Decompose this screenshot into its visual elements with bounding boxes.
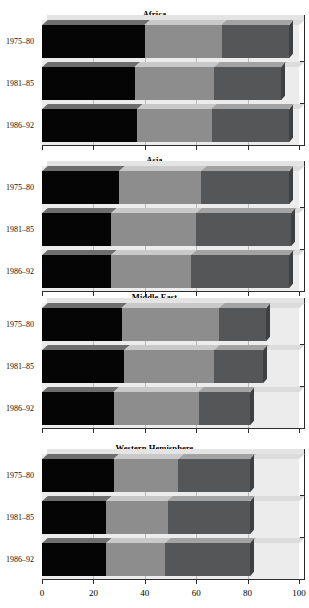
panel-baseline bbox=[42, 579, 305, 580]
x-axis-tick bbox=[248, 429, 249, 433]
bar-row bbox=[0, 171, 309, 204]
bar-row bbox=[0, 255, 309, 288]
bar-segment bbox=[135, 67, 215, 100]
bar-segment bbox=[106, 543, 165, 576]
bar-segment bbox=[111, 213, 196, 246]
x-axis-label: 100 bbox=[292, 588, 306, 598]
x-axis-tick bbox=[248, 146, 249, 150]
stacked-bar-chart-figure: Africa1975–801981–851986–92Asia1975–8019… bbox=[0, 0, 309, 608]
x-axis-label: 20 bbox=[89, 588, 98, 598]
bar-segment bbox=[42, 213, 111, 246]
x-axis-tick bbox=[196, 580, 197, 584]
x-axis-tick bbox=[42, 580, 43, 584]
bar-side-face bbox=[250, 454, 254, 491]
x-axis-tick bbox=[145, 580, 146, 584]
bar-segment bbox=[191, 255, 289, 288]
bar-side-face bbox=[289, 20, 293, 57]
x-axis-label: 80 bbox=[243, 588, 252, 598]
bar-side-face bbox=[291, 208, 295, 245]
bar-segment bbox=[178, 459, 250, 492]
x-axis-tick bbox=[93, 580, 94, 584]
bar-row bbox=[0, 25, 309, 58]
bar-segment bbox=[219, 308, 265, 341]
x-axis-tick bbox=[299, 580, 300, 584]
bar-side-face bbox=[289, 104, 293, 141]
bar-segment bbox=[165, 543, 250, 576]
bar-row bbox=[0, 67, 309, 100]
bar-segment bbox=[42, 459, 114, 492]
x-axis-tick bbox=[145, 429, 146, 433]
bar-segment bbox=[168, 501, 250, 534]
bar-segment bbox=[119, 171, 201, 204]
x-axis-label: 0 bbox=[40, 588, 45, 598]
panel-baseline bbox=[42, 145, 305, 146]
bar-segment bbox=[106, 501, 168, 534]
x-axis-tick bbox=[299, 146, 300, 150]
bar-row bbox=[0, 501, 309, 534]
bar-side-face bbox=[250, 496, 254, 533]
bar-segment bbox=[214, 350, 263, 383]
bar-row bbox=[0, 543, 309, 576]
x-axis-tick bbox=[248, 580, 249, 584]
x-axis-tick bbox=[42, 146, 43, 150]
x-axis-tick bbox=[93, 429, 94, 433]
bar-segment bbox=[111, 255, 191, 288]
bar-segment bbox=[42, 67, 135, 100]
bar-side-face bbox=[289, 250, 293, 287]
bar-segment bbox=[212, 109, 289, 142]
bar-segment bbox=[42, 308, 122, 341]
bar-segment bbox=[42, 350, 124, 383]
bar-segment bbox=[201, 171, 288, 204]
bar-side-face bbox=[281, 62, 285, 99]
bar-segment bbox=[196, 213, 291, 246]
bar-side-face bbox=[263, 345, 267, 382]
bar-segment bbox=[137, 109, 212, 142]
bar-side-face bbox=[250, 538, 254, 575]
bar-segment bbox=[124, 350, 214, 383]
bar-segment bbox=[122, 308, 220, 341]
bar-segment bbox=[214, 67, 281, 100]
x-axis-tick bbox=[299, 429, 300, 433]
bar-segment bbox=[199, 392, 250, 425]
x-axis-tick bbox=[42, 429, 43, 433]
bar-segment bbox=[42, 109, 137, 142]
bar-segment bbox=[42, 255, 111, 288]
bar-segment bbox=[42, 171, 119, 204]
x-axis-tick bbox=[93, 146, 94, 150]
bar-segment bbox=[114, 392, 199, 425]
bar-segment bbox=[222, 25, 289, 58]
bar-side-face bbox=[289, 166, 293, 203]
x-axis-tick bbox=[196, 429, 197, 433]
x-axis-tick bbox=[145, 146, 146, 150]
x-axis-tick bbox=[196, 146, 197, 150]
bar-row bbox=[0, 213, 309, 246]
bar-row bbox=[0, 109, 309, 142]
bar-segment bbox=[42, 543, 106, 576]
x-axis-label: 40 bbox=[140, 588, 149, 598]
bar-segment bbox=[42, 501, 106, 534]
x-axis-label: 60 bbox=[192, 588, 201, 598]
panel-baseline bbox=[42, 428, 305, 429]
bar-row bbox=[0, 459, 309, 492]
bar-segment bbox=[145, 25, 222, 58]
bar-segment bbox=[114, 459, 178, 492]
bar-side-face bbox=[250, 387, 254, 424]
bar-segment bbox=[42, 25, 145, 58]
bar-row bbox=[0, 392, 309, 425]
bar-segment bbox=[42, 392, 114, 425]
bar-row bbox=[0, 308, 309, 341]
bar-side-face bbox=[266, 303, 270, 340]
